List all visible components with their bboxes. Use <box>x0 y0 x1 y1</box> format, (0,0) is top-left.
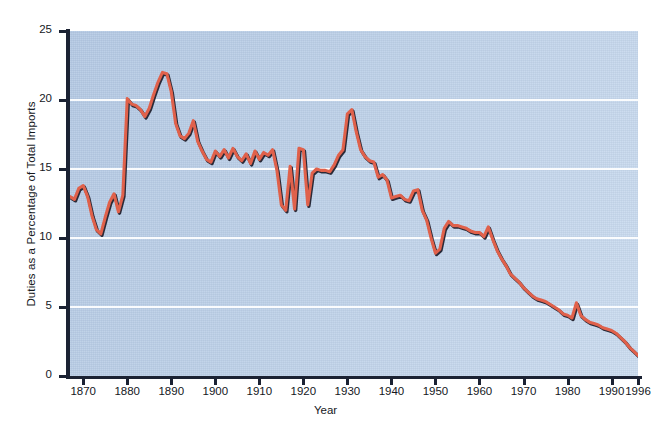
x-tick-label-1930: 1930 <box>322 385 372 397</box>
x-tick-label-1970: 1970 <box>499 385 549 397</box>
x-tick-1890 <box>170 377 173 385</box>
x-tick-1996 <box>637 377 640 385</box>
data-series-line <box>70 31 638 376</box>
y-tick-25 <box>59 30 67 33</box>
x-tick-label-1900: 1900 <box>190 385 240 397</box>
x-tick-1960 <box>478 377 481 385</box>
y-tick-5 <box>59 306 67 309</box>
x-tick-label-1996: 1996 <box>613 385 651 397</box>
x-tick-1880 <box>126 377 129 385</box>
data-series-path <box>70 72 638 355</box>
x-tick-1920 <box>302 377 305 385</box>
x-tick-label-1940: 1940 <box>366 385 416 397</box>
x-axis-line <box>66 376 642 379</box>
x-tick-label-1920: 1920 <box>278 385 328 397</box>
x-tick-label-1910: 1910 <box>234 385 284 397</box>
y-tick-0 <box>59 375 67 378</box>
x-tick-1930 <box>346 377 349 385</box>
x-axis-title: Year <box>0 404 651 416</box>
x-tick-1870 <box>82 377 85 385</box>
y-tick-20 <box>59 99 67 102</box>
chart-figure: 0510152025 18701880189019001910192019301… <box>0 0 651 431</box>
x-tick-label-1870: 1870 <box>58 385 108 397</box>
x-tick-1940 <box>390 377 393 385</box>
x-tick-1990 <box>611 377 614 385</box>
x-tick-1950 <box>434 377 437 385</box>
y-tick-10 <box>59 237 67 240</box>
x-tick-1900 <box>214 377 217 385</box>
x-tick-label-1960: 1960 <box>454 385 504 397</box>
x-tick-1970 <box>523 377 526 385</box>
y-axis-line <box>66 29 70 378</box>
plot-area <box>70 31 638 376</box>
x-tick-1980 <box>567 377 570 385</box>
y-axis-title: Duties as a Percentage of Total Imports <box>25 34 37 374</box>
x-tick-label-1950: 1950 <box>410 385 460 397</box>
x-tick-label-1880: 1880 <box>102 385 152 397</box>
x-tick-label-1980: 1980 <box>543 385 593 397</box>
x-tick-label-1890: 1890 <box>146 385 196 397</box>
x-tick-1910 <box>258 377 261 385</box>
y-tick-15 <box>59 168 67 171</box>
